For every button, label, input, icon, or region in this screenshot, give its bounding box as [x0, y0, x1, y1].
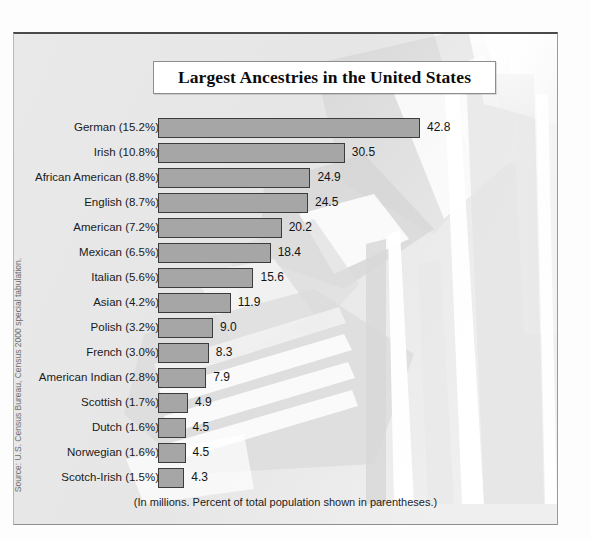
bar-category-label: American (7.2%): [73, 217, 159, 238]
bar-value-label: 4.3: [191, 467, 208, 488]
chart-frame: Largest Ancestries in the United States …: [13, 32, 558, 525]
bar: [158, 193, 308, 213]
bar-row: Norwegian (1.6%)4.5: [14, 442, 557, 467]
bar-chart-plot: German (15.2%)42.8Irish (10.8%)30.5Afric…: [14, 117, 557, 489]
bar-category-label: Irish (10.8%): [94, 142, 159, 163]
bar-category-label: African American (8.8%): [35, 167, 159, 188]
bar: [158, 218, 282, 238]
bar: [158, 343, 209, 363]
bar: [158, 318, 213, 338]
bar: [158, 368, 206, 388]
bar-value-label: 20.2: [289, 217, 312, 238]
bar-category-label: English (8.7%): [84, 192, 159, 213]
source-credit: Source: U.S. Census Bureau, Census 2000 …: [13, 225, 23, 525]
bar-value-label: 11.9: [238, 292, 260, 313]
bar-value-label: 18.4: [278, 242, 301, 263]
chart-caption: (In millions. Percent of total populatio…: [14, 496, 557, 508]
bar-row: African American (8.8%)24.9: [14, 167, 557, 192]
bar-value-label: 9.0: [220, 317, 237, 338]
bar: [158, 118, 420, 138]
bar-value-label: 15.6: [260, 267, 283, 288]
bar: [158, 293, 231, 313]
bar-row: American Indian (2.8%)7.9: [14, 367, 557, 392]
bar: [158, 443, 186, 463]
bar-value-label: 8.3: [216, 342, 233, 363]
bar-category-label: French (3.0%): [86, 342, 159, 363]
bar-row: Dutch (1.6%)4.5: [14, 417, 557, 442]
bar-row: French (3.0%)8.3: [14, 342, 557, 367]
bar-value-label: 4.5: [193, 442, 210, 463]
poster-page: Largest Ancestries in the United States …: [0, 0, 591, 541]
bar-category-label: Norwegian (1.6%): [67, 442, 159, 463]
bar-row: Asian (4.2%)11.9: [14, 292, 557, 317]
bar-category-label: American Indian (2.8%): [39, 367, 159, 388]
bar-value-label: 7.9: [213, 367, 230, 388]
bar-category-label: Dutch (1.6%): [92, 417, 159, 438]
bar-row: Irish (10.8%)30.5: [14, 142, 557, 167]
bar: [158, 393, 188, 413]
bar-category-label: Mexican (6.5%): [79, 242, 159, 263]
bar-row: Scottish (1.7%)4.9: [14, 392, 557, 417]
bar-category-label: Scotch-Irish (1.5%): [61, 467, 159, 488]
chart-title-plaque: Largest Ancestries in the United States: [153, 61, 496, 94]
bar-value-label: 42.8: [427, 117, 450, 138]
bar-row: German (15.2%)42.8: [14, 117, 557, 142]
bar-category-label: Asian (4.2%): [93, 292, 159, 313]
bar: [158, 268, 253, 288]
bar-category-label: Polish (3.2%): [91, 317, 159, 338]
bar: [158, 418, 186, 438]
bar-value-label: 30.5: [352, 142, 375, 163]
bar-value-label: 4.5: [193, 417, 210, 438]
bar-category-label: Scottish (1.7%): [81, 392, 159, 413]
bar: [158, 143, 345, 163]
bar: [158, 168, 310, 188]
bar: [158, 468, 184, 488]
bar-row: Italian (5.6%)15.6: [14, 267, 557, 292]
bar-row: English (8.7%)24.5: [14, 192, 557, 217]
bar-row: American (7.2%)20.2: [14, 217, 557, 242]
bar-value-label: 24.9: [317, 167, 340, 188]
bar-row: Mexican (6.5%)18.4: [14, 242, 557, 267]
page-title: Largest Ancestries in the United States: [178, 67, 471, 88]
bar: [158, 243, 271, 263]
bar-value-label: 4.9: [195, 392, 212, 413]
bar-row: Polish (3.2%)9.0: [14, 317, 557, 342]
bar-row: Scotch-Irish (1.5%)4.3: [14, 467, 557, 492]
bar-category-label: Italian (5.6%): [91, 267, 159, 288]
bar-category-label: German (15.2%): [74, 117, 159, 138]
bar-value-label: 24.5: [315, 192, 338, 213]
